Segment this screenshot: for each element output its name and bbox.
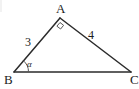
side-ab-line: [14, 18, 60, 72]
vertex-label-a: A: [56, 2, 65, 15]
right-angle-marker-icon: [57, 23, 64, 30]
side-ac-line: [60, 18, 131, 72]
vertex-label-b: B: [4, 73, 13, 86]
triangle-graphic: [0, 0, 139, 89]
side-length-label-ab: 3: [25, 36, 31, 48]
side-length-label-ac: 4: [88, 29, 94, 41]
triangle-figure: A B C 3 4 α: [0, 0, 139, 89]
angle-label-alpha: α: [27, 60, 32, 69]
vertex-label-c: C: [130, 73, 139, 86]
